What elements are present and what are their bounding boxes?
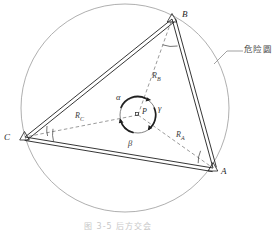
- angle-label-beta: β: [128, 139, 132, 148]
- figure-caption: 图 3-5 后方交会: [84, 223, 152, 230]
- triangle-side-AC: [25, 137, 213, 172]
- triangle-side-BA: [172, 19, 216, 168]
- radius-label-RC: RC: [75, 112, 84, 122]
- radius-line-RB: [138, 19, 172, 115]
- center-point-label: P: [142, 108, 147, 116]
- figure-container: B A C RB RA RC α β γ P 危险圆 图 3-5 后方交会: [0, 0, 276, 230]
- angle-label-gamma: γ: [158, 104, 161, 113]
- vertex-angle-arc-B: [163, 45, 178, 47]
- vertex-label-C: C: [4, 133, 10, 142]
- vertex-label-A: A: [221, 167, 227, 176]
- danger-circle-annotation: 危险圆: [244, 45, 272, 54]
- danger-circle: [21, 4, 229, 212]
- radius-label-RA: RA: [176, 131, 185, 141]
- angle-arc-beta-arrowhead: [119, 119, 124, 123]
- radius-label-RB-sub: B: [157, 76, 161, 82]
- radius-line-RA: [138, 115, 213, 168]
- vertex-angle-arc-C2: [47, 126, 48, 136]
- station-marker-B: [167, 14, 177, 23]
- vertex-angle-arc-A: [198, 151, 200, 163]
- vertex-angle-arc-C: [53, 129, 54, 142]
- radius-label-RB: RB: [152, 72, 161, 82]
- angle-label-alpha: α: [116, 93, 120, 102]
- radius-label-RC-sub: C: [80, 116, 84, 122]
- radius-label-RA-sub: A: [181, 135, 185, 141]
- vertex-label-B: B: [182, 10, 188, 19]
- geometry-diagram: [0, 0, 276, 230]
